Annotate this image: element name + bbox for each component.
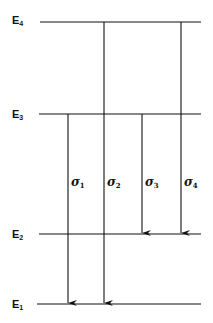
energy-level-diagram: E4 E3 E2 E1 σ1 σ2 σ3 σ4 [0,0,213,323]
level-label-e1: E1 [12,298,23,311]
level-label-e2: E2 [12,228,23,241]
level-label-e4: E4 [12,14,23,27]
transition-label-sigma4: σ4 [184,175,198,190]
transition-label-sigma1: σ1 [71,175,85,190]
transition-label-sigma3: σ3 [145,175,159,190]
level-label-e3: E3 [12,108,23,121]
transition-label-sigma2: σ2 [107,175,121,190]
